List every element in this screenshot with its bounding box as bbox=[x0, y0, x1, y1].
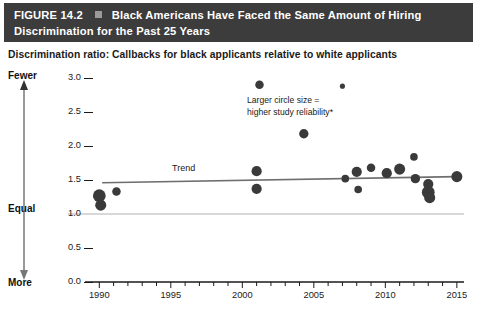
y-tick-mark bbox=[84, 78, 93, 79]
bubble-size-legend: Larger circle size = higher study reliab… bbox=[247, 95, 333, 118]
data-point[interactable] bbox=[411, 174, 420, 183]
data-point[interactable] bbox=[95, 200, 106, 211]
y-tick-mark bbox=[84, 112, 93, 113]
axis-lines bbox=[85, 282, 464, 288]
data-point[interactable] bbox=[410, 153, 418, 161]
data-point[interactable] bbox=[252, 184, 262, 194]
y-tick-mark bbox=[84, 180, 93, 181]
square-bullet-icon bbox=[95, 11, 102, 18]
y-tick-label: 3.0 bbox=[55, 72, 81, 82]
chart-subtitle: Discrimination ratio: Callbacks for blac… bbox=[8, 49, 397, 60]
data-point[interactable] bbox=[112, 187, 121, 196]
bubble-size-legend-line-2: higher study reliability* bbox=[247, 107, 333, 119]
y-tick-mark bbox=[84, 282, 93, 283]
data-point[interactable] bbox=[340, 84, 345, 89]
x-tick-label: 1995 bbox=[151, 290, 191, 300]
y-tick-label: 1.0 bbox=[55, 208, 81, 218]
axis-anchor-fewer: Fewer bbox=[8, 70, 37, 81]
y-tick-mark bbox=[84, 248, 93, 249]
x-tick-label: 2000 bbox=[222, 290, 262, 300]
data-point[interactable] bbox=[255, 81, 264, 90]
data-point[interactable] bbox=[382, 168, 392, 178]
y-tick-label: 2.0 bbox=[55, 140, 81, 150]
data-point[interactable] bbox=[424, 192, 435, 203]
data-point[interactable] bbox=[352, 167, 362, 177]
data-point[interactable] bbox=[354, 186, 362, 194]
data-point[interactable] bbox=[299, 129, 308, 138]
y-tick-label: 1.5 bbox=[55, 174, 81, 184]
data-point[interactable] bbox=[367, 164, 376, 173]
data-point[interactable] bbox=[341, 175, 349, 183]
figure-title-bar: FIGURE 14.2Black Americans Have Faced th… bbox=[4, 3, 473, 42]
data-point[interactable] bbox=[451, 171, 462, 182]
y-tick-mark bbox=[84, 146, 93, 147]
x-tick-label: 2015 bbox=[437, 290, 477, 300]
figure-title-line-1: FIGURE 14.2Black Americans Have Faced th… bbox=[14, 7, 463, 23]
vertical-direction-arrow bbox=[20, 80, 28, 280]
bubble-size-legend-line-1: Larger circle size = bbox=[247, 95, 333, 107]
figure-number-label: FIGURE 14.2 bbox=[14, 9, 83, 21]
x-tick-label: 2010 bbox=[365, 290, 405, 300]
data-point[interactable] bbox=[252, 166, 262, 176]
figure-container: FIGURE 14.2Black Americans Have Faced th… bbox=[0, 0, 477, 310]
scatter-plot-canvas bbox=[0, 0, 477, 310]
y-tick-label: 2.5 bbox=[55, 106, 81, 116]
axis-anchor-equal: Equal bbox=[8, 203, 35, 214]
data-point[interactable] bbox=[394, 164, 405, 175]
trend-line bbox=[102, 177, 457, 183]
data-point[interactable] bbox=[93, 189, 106, 202]
trend-line-label: Trend bbox=[172, 163, 195, 173]
x-tick-label: 1990 bbox=[79, 290, 119, 300]
y-tick-label: 0.0 bbox=[55, 276, 81, 286]
x-tick-label: 2005 bbox=[294, 290, 334, 300]
data-point[interactable] bbox=[422, 186, 435, 199]
axis-anchor-more: More bbox=[8, 277, 32, 288]
figure-title-line-2: Discrimination for the Past 25 Years bbox=[14, 23, 463, 39]
y-tick-label: 0.5 bbox=[55, 242, 81, 252]
figure-title-text-line-1: Black Americans Have Faced the Same Amou… bbox=[112, 9, 422, 21]
data-point[interactable] bbox=[423, 179, 433, 189]
